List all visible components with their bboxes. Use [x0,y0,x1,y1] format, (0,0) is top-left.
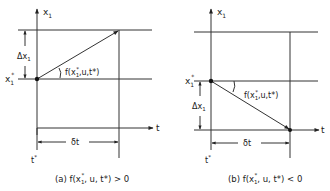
x1-axis-label-b: x1 [217,7,226,19]
x1-axis-label-a: x1 [43,7,52,19]
panel-b: x1 t x1* Δx1 f(x1*,u,t*) δt t* (b) f(x1*… [185,7,325,185]
start-point-b [209,79,213,83]
trajectory-arrow-b [211,81,289,129]
delta-x-label-a: Δx1 [17,52,31,62]
x1-star-label-a: x1* [5,71,14,86]
panel-a: x1 t Δx1 x1* f(x1*,u,t*) δt t* (a) f(x1*… [5,7,160,185]
t-axis-label-b: t [321,125,325,135]
delta-t-label-b: δt [243,139,251,148]
x1-star-label-b: x1* [185,73,194,88]
delta-t-label-a: δt [71,138,79,147]
caption-a: (a) f(x1*, u, t*) > 0 [55,172,129,185]
t-axis-label-a: t [156,123,160,133]
slope-angle-arc-b [233,81,235,92]
end-point-b [288,128,292,132]
start-point-a [35,77,39,81]
delta-x-label-b: Δx1 [192,102,206,112]
t-star-label-b: t* [205,154,211,165]
diagram-canvas: x1 t Δx1 x1* f(x1*,u,t*) δt t* (a) f(x1*… [0,0,330,191]
slope-angle-arc-a [59,68,61,78]
slope-label-a: f(x1*,u,t*) [65,66,99,78]
slope-label-b: f(x1*,u,t*) [244,89,278,101]
t-star-label-a: t* [31,154,37,165]
caption-b: (b) f(x1*, u, t*) < 0 [228,172,302,185]
